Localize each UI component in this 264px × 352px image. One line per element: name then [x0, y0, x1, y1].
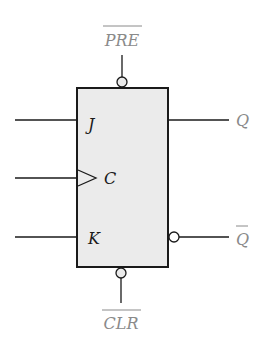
clock-label: C: [104, 169, 116, 188]
q-label: Q: [236, 111, 249, 130]
clr-inversion-bubble: [116, 268, 126, 278]
jk-flip-flop-diagram: PRE J Q C K Q CLR: [0, 0, 264, 352]
pre-label: PRE: [104, 31, 140, 50]
qbar-inversion-bubble: [169, 232, 179, 242]
k-label: K: [87, 229, 101, 248]
pre-inversion-bubble: [117, 77, 127, 87]
clr-label: CLR: [104, 314, 139, 333]
qbar-label: Q: [236, 230, 249, 249]
